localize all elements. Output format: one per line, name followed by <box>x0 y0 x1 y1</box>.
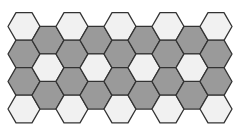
hex-grid-diagram <box>0 0 242 134</box>
hex-grid-canvas <box>0 0 242 134</box>
